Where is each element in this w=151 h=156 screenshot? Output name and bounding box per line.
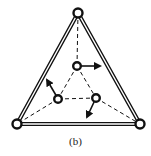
node-top (74, 9, 83, 18)
figure-caption: (b) (0, 135, 151, 147)
node-bottom-left (13, 120, 22, 129)
node-inner-left (54, 95, 62, 103)
inner-nodes (54, 62, 100, 103)
arrow-up-left-icon (47, 80, 57, 97)
triangle-diagram (0, 0, 151, 156)
node-inner-right (92, 94, 100, 102)
node-bottom-right (136, 120, 145, 129)
arrow-down-left-icon (87, 100, 95, 117)
node-inner-top (73, 62, 81, 70)
